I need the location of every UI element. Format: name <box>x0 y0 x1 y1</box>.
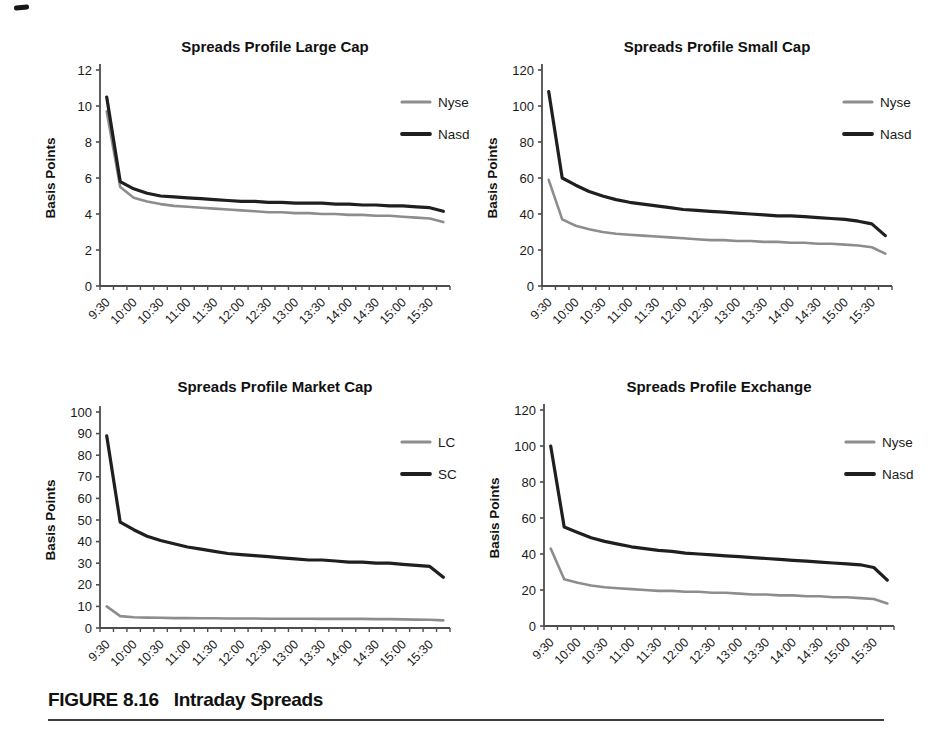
y-tick-label: 40 <box>520 207 534 222</box>
x-tick-label: 10:00 <box>108 295 140 327</box>
y-tick-label: 120 <box>512 63 534 78</box>
y-tick-label: 10 <box>78 599 92 614</box>
x-tick-label: 14:30 <box>792 295 824 327</box>
y-axis-label: Basis Points <box>487 477 502 558</box>
legend-label-nasd: Nasd <box>438 127 470 142</box>
y-tick-label: 6 <box>85 171 92 186</box>
x-tick-label: 13:30 <box>740 635 772 667</box>
x-tick-label: 11:30 <box>633 635 664 666</box>
y-tick-label: 8 <box>85 135 92 150</box>
x-tick-label: 13:30 <box>296 637 328 669</box>
x-tick-label: 11:00 <box>162 637 193 668</box>
y-tick-label: 70 <box>78 469 92 484</box>
x-tick-label: 13:00 <box>269 295 301 327</box>
figure-caption-rule <box>48 719 884 721</box>
x-tick-label: 12:30 <box>686 635 718 667</box>
y-tick-label: 20 <box>78 577 92 592</box>
x-tick-label: 15:30 <box>848 635 880 667</box>
x-tick-label: 11:00 <box>606 635 637 666</box>
figure-caption: FIGURE 8.16 Intraday Spreads <box>48 689 884 711</box>
x-tick-label: 10:00 <box>550 295 582 327</box>
y-tick-label: 40 <box>522 547 536 562</box>
chart-title: Spreads Profile Large Cap <box>181 38 369 55</box>
x-tick-label: 15:30 <box>846 295 878 327</box>
x-tick-label: 10:30 <box>135 295 167 327</box>
y-tick-label: 0 <box>85 621 92 636</box>
x-tick-label: 12:30 <box>684 295 716 327</box>
series-line-sc <box>107 436 444 577</box>
y-tick-label: 0 <box>529 619 536 634</box>
legend-label-nasd: Nasd <box>880 127 912 142</box>
y-tick-label: 80 <box>78 448 92 463</box>
y-tick-label: 12 <box>78 63 92 78</box>
x-tick-label: 13:00 <box>269 637 301 669</box>
y-tick-label: 50 <box>78 513 92 528</box>
y-tick-label: 20 <box>520 243 534 258</box>
x-tick-label: 15:00 <box>377 295 409 327</box>
y-tick-label: 20 <box>522 583 536 598</box>
x-tick-label: 10:00 <box>108 637 140 669</box>
x-tick-label: 11:30 <box>189 295 220 326</box>
y-tick-label: 30 <box>78 556 92 571</box>
series-line-nasd <box>551 446 888 580</box>
x-tick-label: 13:00 <box>713 635 745 667</box>
x-tick-label: 10:30 <box>579 635 611 667</box>
chart-svg: Spreads Profile Market CapBasis Points01… <box>0 340 474 680</box>
y-axis-label: Basis Points <box>43 137 58 218</box>
x-tick-label: 10:00 <box>552 635 584 667</box>
y-tick-label: 60 <box>520 171 534 186</box>
y-tick-label: 100 <box>514 439 536 454</box>
chart-spreads-market-cap: Spreads Profile Market CapBasis Points01… <box>0 340 474 680</box>
legend-label-nasd: Nasd <box>882 467 914 482</box>
chart-svg: Spreads Profile Large CapBasis Points024… <box>0 0 474 340</box>
x-tick-label: 11:00 <box>604 295 635 326</box>
x-tick-label: 12:30 <box>242 637 274 669</box>
y-axis-label: Basis Points <box>485 137 500 218</box>
x-tick-label: 14:30 <box>794 635 826 667</box>
legend-label-nyse: Nyse <box>438 95 469 110</box>
x-tick-label: 10:30 <box>577 295 609 327</box>
x-tick-label: 13:30 <box>738 295 770 327</box>
x-tick-label: 12:30 <box>242 295 274 327</box>
x-tick-label: 14:00 <box>323 295 355 327</box>
y-tick-label: 60 <box>522 511 536 526</box>
chart-title: Spreads Profile Small Cap <box>624 38 811 55</box>
x-tick-label: 12:00 <box>659 635 691 667</box>
chart-spreads-exchange: Spreads Profile ExchangeBasis Points0204… <box>474 340 948 680</box>
y-tick-label: 100 <box>512 99 534 114</box>
x-tick-label: 15:30 <box>404 637 436 669</box>
x-tick-label: 12:00 <box>215 295 247 327</box>
chart-svg: Spreads Profile Small CapBasis Points020… <box>474 0 948 340</box>
y-tick-label: 0 <box>527 279 534 294</box>
x-tick-label: 14:00 <box>767 635 799 667</box>
y-tick-label: 40 <box>78 534 92 549</box>
x-tick-label: 15:00 <box>819 295 851 327</box>
x-tick-label: 14:00 <box>323 637 355 669</box>
x-tick-label: 14:00 <box>765 295 797 327</box>
chart-title: Spreads Profile Exchange <box>626 378 811 395</box>
chart-spreads-large-cap: Spreads Profile Large CapBasis Points024… <box>0 0 474 340</box>
y-tick-label: 4 <box>85 207 92 222</box>
x-tick-label: 15:00 <box>821 635 853 667</box>
y-tick-label: 80 <box>522 475 536 490</box>
series-line-nasd <box>107 97 444 211</box>
figure-charts-grid: Spreads Profile Large CapBasis Points024… <box>0 0 948 680</box>
chart-spreads-small-cap: Spreads Profile Small CapBasis Points020… <box>474 0 948 340</box>
legend-label-lc: LC <box>438 435 456 450</box>
chart-title: Spreads Profile Market Cap <box>177 378 372 395</box>
y-tick-label: 2 <box>85 243 92 258</box>
series-line-nyse <box>549 180 886 254</box>
y-tick-label: 80 <box>520 135 534 150</box>
x-tick-label: 14:30 <box>350 637 382 669</box>
y-axis-label: Basis Points <box>43 479 58 560</box>
x-tick-label: 15:30 <box>404 295 436 327</box>
x-tick-label: 13:30 <box>296 295 328 327</box>
x-tick-label: 12:00 <box>215 637 247 669</box>
legend-label-nyse: Nyse <box>880 95 911 110</box>
chart-svg: Spreads Profile ExchangeBasis Points0204… <box>474 340 948 680</box>
legend-label-nyse: Nyse <box>882 435 913 450</box>
y-tick-label: 90 <box>78 426 92 441</box>
series-line-lc <box>107 606 444 620</box>
figure-caption-label: FIGURE 8.16 <box>48 689 159 711</box>
figure-caption-title: Intraday Spreads <box>174 689 323 711</box>
